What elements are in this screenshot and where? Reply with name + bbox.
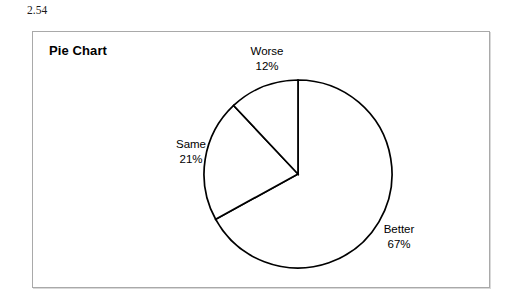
pie-label-same-value: 21% (150, 152, 232, 167)
figure-number: 2.54 (27, 3, 47, 17)
pie-label-worse-name: Worse (219, 44, 315, 59)
pie-label-same: Same 21% (150, 137, 232, 167)
pie-label-same-name: Same (150, 137, 232, 152)
chart-panel: Pie Chart Worse 12% Same 21% Better 67% (32, 31, 490, 288)
pie-label-worse-value: 12% (219, 59, 315, 74)
pie-label-better-name: Better (351, 222, 447, 237)
pie-label-better: Better 67% (351, 222, 447, 252)
pie-label-worse: Worse 12% (219, 44, 315, 74)
figure-root: 2.54 Pie Chart Worse 12% Same 21% Better… (0, 0, 522, 300)
pie-label-better-value: 67% (351, 237, 447, 252)
